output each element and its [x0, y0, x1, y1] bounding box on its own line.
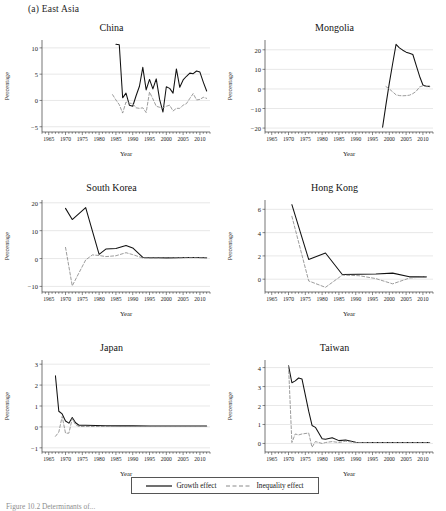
- x-tick-label: 1985: [110, 136, 121, 142]
- y-tick-label: 3: [258, 383, 261, 390]
- x-tick-label: 1995: [144, 296, 155, 302]
- y-tick-label: −1: [31, 444, 38, 451]
- x-tick-label: 2010: [194, 136, 205, 142]
- x-tick-labels: 1965197019751980198519901995200020052010: [265, 296, 433, 306]
- x-tick-label: 1975: [77, 456, 88, 462]
- x-tick-label: 1985: [110, 296, 121, 302]
- x-tick-labels: 1965197019751980198519901995200020052010: [42, 296, 210, 306]
- x-tick-label: 1975: [300, 296, 311, 302]
- legend-item-inequality: Inequality effect: [226, 482, 303, 490]
- y-tick-label: 10: [32, 44, 39, 51]
- y-tick-label: 0: [35, 423, 38, 430]
- x-tick-label: 2000: [384, 136, 395, 142]
- chart-title: China: [0, 22, 223, 33]
- plot-svg: [42, 200, 210, 292]
- x-tick-label: 1995: [367, 296, 378, 302]
- legend-line-dashed-icon: [226, 483, 252, 489]
- y-tick-label: 2: [258, 402, 261, 409]
- y-tick-labels: 0246: [235, 200, 261, 292]
- x-tick-label: 2000: [161, 456, 172, 462]
- plot-svg: [42, 360, 210, 452]
- x-tick-label: 1975: [300, 456, 311, 462]
- x-tick-label: 1980: [94, 456, 105, 462]
- y-tick-labels: −10123: [12, 360, 38, 452]
- x-tick-label: 1980: [94, 136, 105, 142]
- x-tick-label: 1990: [127, 456, 138, 462]
- x-tick-label: 1975: [300, 136, 311, 142]
- x-tick-label: 1970: [60, 136, 71, 142]
- x-tick-label: 1975: [77, 296, 88, 302]
- x-tick-label: 1995: [144, 456, 155, 462]
- chart-title: Taiwan: [223, 342, 446, 353]
- x-tick-labels: 1965197019751980198519901995200020052010: [265, 456, 433, 466]
- x-axis-label: Year: [42, 470, 210, 477]
- plot-svg: [265, 360, 433, 452]
- chart-panel-japan: Japan Percentage −10123 1965197019751980…: [0, 336, 223, 496]
- x-tick-label: 1990: [350, 456, 361, 462]
- x-tick-label: 1980: [317, 296, 328, 302]
- y-tick-label: 5: [35, 71, 38, 78]
- y-tick-label: −10: [28, 283, 38, 290]
- y-tick-labels: −20−1001020: [235, 40, 261, 132]
- x-tick-label: 1985: [333, 456, 344, 462]
- y-tick-labels: −1001020: [12, 200, 38, 292]
- chart-panel-south-korea: South Korea Percentage −1001020 19651970…: [0, 176, 223, 336]
- y-tick-label: 0: [258, 440, 261, 447]
- x-tick-label: 1970: [60, 456, 71, 462]
- x-tick-labels: 1965197019751980198519901995200020052010: [42, 136, 210, 146]
- x-tick-label: 1985: [333, 296, 344, 302]
- x-tick-label: 1965: [266, 136, 277, 142]
- x-tick-label: 1985: [110, 456, 121, 462]
- y-tick-label: 10: [255, 66, 262, 73]
- x-tick-label: 2005: [178, 136, 189, 142]
- x-tick-label: 1995: [367, 456, 378, 462]
- x-tick-label: 1990: [127, 136, 138, 142]
- chart-panel-hong-kong: Hong Kong Percentage 0246 19651970197519…: [223, 176, 446, 336]
- panel-label: (a) East Asia: [28, 4, 79, 14]
- y-tick-label: 2: [35, 382, 38, 389]
- x-tick-label: 2010: [194, 296, 205, 302]
- plot-area: [265, 200, 433, 292]
- x-tick-label: 2005: [178, 296, 189, 302]
- x-axis-label: Year: [265, 470, 433, 477]
- y-tick-label: 0: [35, 255, 38, 262]
- x-tick-label: 2010: [417, 136, 428, 142]
- y-tick-label: 0: [258, 276, 261, 283]
- plot-area: [42, 40, 210, 132]
- x-axis-label: Year: [42, 150, 210, 157]
- y-tick-label: 0: [35, 97, 38, 104]
- legend-label-growth: Growth effect: [176, 482, 216, 490]
- x-tick-label: 1970: [60, 296, 71, 302]
- x-tick-label: 2005: [178, 456, 189, 462]
- x-tick-label: 1965: [43, 136, 54, 142]
- x-tick-label: 2010: [194, 456, 205, 462]
- x-tick-label: 2005: [401, 456, 412, 462]
- y-tick-label: 2: [258, 252, 261, 259]
- x-tick-label: 1980: [317, 456, 328, 462]
- plot-svg: [265, 200, 433, 292]
- legend-line-solid-icon: [146, 483, 172, 489]
- plot-area: [42, 200, 210, 292]
- chart-panel-mongolia: Mongolia Percentage −20−1001020 19651970…: [223, 16, 446, 176]
- y-tick-label: 4: [258, 229, 261, 236]
- chart-panel-taiwan: Taiwan Percentage 01234 1965197019751980…: [223, 336, 446, 496]
- chart-title: Japan: [0, 342, 223, 353]
- x-tick-label: 2000: [384, 296, 395, 302]
- x-tick-label: 1965: [266, 296, 277, 302]
- figure-root: (a) East Asia China Percentage −50510 19…: [0, 0, 446, 511]
- x-tick-label: 1965: [43, 456, 54, 462]
- y-tick-label: 4: [258, 364, 261, 371]
- chart-title: Mongolia: [223, 22, 446, 33]
- x-tick-label: 1990: [350, 136, 361, 142]
- legend-item-growth: Growth effect: [146, 482, 216, 490]
- x-axis-label: Year: [265, 310, 433, 317]
- x-axis-label: Year: [42, 310, 210, 317]
- x-tick-label: 2000: [161, 136, 172, 142]
- legend: Growth effect Inequality effect: [131, 477, 319, 494]
- x-tick-labels: 1965197019751980198519901995200020052010: [42, 456, 210, 466]
- plot-area: [265, 360, 433, 452]
- x-tick-label: 1990: [127, 296, 138, 302]
- x-tick-label: 1970: [283, 456, 294, 462]
- y-tick-label: 6: [258, 206, 261, 213]
- chart-panel-china: China Percentage −50510 1965197019751980…: [0, 16, 223, 176]
